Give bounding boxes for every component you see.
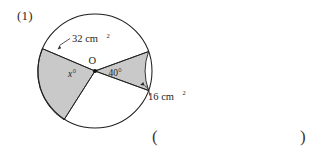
- answer-row: ( ): [0, 128, 326, 162]
- center-point-dot: [93, 69, 97, 73]
- area-label-small-exponent: 2: [183, 89, 186, 96]
- area-label-large: 32 cm: [72, 33, 98, 44]
- answer-close-paren: ): [300, 128, 306, 145]
- known-angle-label: 40°: [109, 68, 123, 78]
- leader-arrow-large-area: [58, 46, 62, 50]
- figure-stage: (1) 32 cm 2 16 cm 2 O x° 40°: [0, 0, 326, 162]
- leader-line-large-area: [60, 39, 71, 46]
- answer-open-paren: (: [152, 128, 158, 145]
- unknown-angle-label: x°: [67, 69, 76, 79]
- center-label-o: O: [89, 55, 97, 66]
- area-label-large-exponent: 2: [107, 32, 110, 39]
- area-label-small: 16 cm: [148, 91, 174, 102]
